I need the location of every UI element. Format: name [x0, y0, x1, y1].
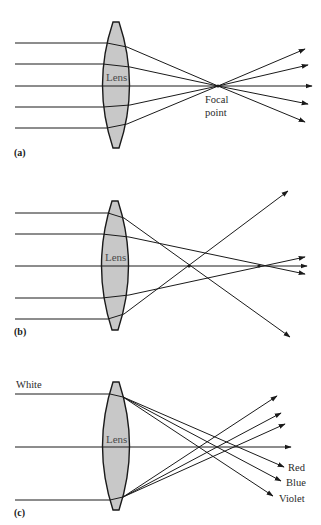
dispersed-rays-top	[110, 394, 284, 496]
panel-label-c: (c)	[14, 507, 25, 519]
outgoing-rays	[124, 191, 307, 337]
red-label: Red	[288, 462, 306, 473]
panel-b: Lens (b)	[14, 191, 307, 338]
incoming-rays	[15, 213, 108, 319]
incoming-rays	[15, 43, 107, 128]
blue-label: Blue	[286, 477, 306, 488]
incoming-rays	[15, 394, 110, 500]
panel-a: Lens Focal point (a)	[14, 22, 312, 159]
lens-shape	[103, 382, 130, 510]
dispersed-rays-bottom	[110, 396, 285, 500]
lens-aberration-figure: Lens Focal point (a)	[0, 0, 321, 525]
near-focal-point-marker	[187, 264, 190, 267]
focal-label-line1: Focal	[205, 94, 228, 105]
white-light-label: White	[16, 379, 42, 390]
focal-point-marker	[216, 84, 219, 87]
lens-label: Lens	[106, 433, 127, 445]
focal-label-line2: point	[205, 107, 227, 118]
lens-shape	[103, 22, 130, 148]
far-focal-point-marker	[257, 264, 260, 267]
panel-label-a: (a)	[14, 147, 26, 159]
lens-label: Lens	[106, 71, 127, 83]
violet-label: Violet	[279, 493, 305, 504]
panel-label-b: (b)	[14, 326, 26, 338]
lens-label: Lens	[105, 251, 126, 263]
panel-c: Lens White Red Blue Violet (c)	[14, 379, 306, 519]
